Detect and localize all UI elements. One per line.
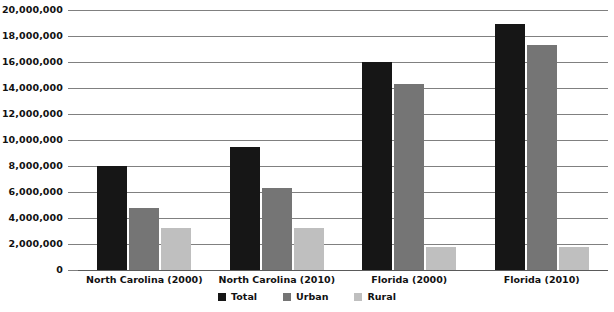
bar-group bbox=[343, 10, 476, 270]
y-axis-label: 12,000,000 bbox=[0, 108, 63, 119]
category-label: North Carolina (2010) bbox=[211, 274, 344, 285]
bar-group bbox=[211, 10, 344, 270]
bar-group bbox=[78, 10, 211, 270]
bar-urban bbox=[527, 45, 557, 270]
gridline bbox=[78, 270, 608, 271]
legend-swatch-icon bbox=[283, 293, 291, 301]
bar-rural bbox=[559, 247, 589, 270]
legend-swatch-icon bbox=[354, 293, 362, 301]
legend-item-urban[interactable]: Urban bbox=[283, 291, 328, 302]
y-axis-tick bbox=[68, 88, 78, 89]
bar-urban bbox=[394, 84, 424, 270]
chart-legend: TotalUrbanRural bbox=[0, 291, 614, 302]
bar-rural bbox=[426, 247, 456, 270]
bar-total bbox=[230, 147, 260, 271]
category-label: North Carolina (2000) bbox=[78, 274, 211, 285]
y-axis-tick bbox=[68, 10, 78, 11]
y-axis-tick bbox=[68, 192, 78, 193]
y-axis-tick bbox=[68, 218, 78, 219]
y-axis-label: 14,000,000 bbox=[0, 82, 63, 93]
y-axis-tick bbox=[68, 36, 78, 37]
y-axis-label: 10,000,000 bbox=[0, 134, 63, 145]
bar-urban bbox=[262, 188, 292, 270]
legend-label: Rural bbox=[367, 291, 395, 302]
bar-total bbox=[362, 62, 392, 270]
legend-swatch-icon bbox=[218, 293, 226, 301]
bar-total bbox=[97, 166, 127, 270]
legend-item-rural[interactable]: Rural bbox=[354, 291, 395, 302]
y-axis-label: 18,000,000 bbox=[0, 30, 63, 41]
y-axis-label: 16,000,000 bbox=[0, 56, 63, 67]
legend-label: Total bbox=[231, 291, 257, 302]
y-axis-label: 0 bbox=[0, 264, 63, 275]
bar-rural bbox=[294, 228, 324, 270]
y-axis-label: 8,000,000 bbox=[0, 160, 63, 171]
bar-chart: 20,000,00018,000,00016,000,00014,000,000… bbox=[0, 0, 614, 312]
y-axis-tick bbox=[68, 62, 78, 63]
category-label: Florida (2000) bbox=[343, 274, 476, 285]
legend-item-total[interactable]: Total bbox=[218, 291, 257, 302]
bar-groups bbox=[78, 10, 608, 270]
bar-urban bbox=[129, 208, 159, 270]
y-axis-label: 2,000,000 bbox=[0, 238, 63, 249]
bar-group bbox=[476, 10, 609, 270]
legend-label: Urban bbox=[296, 291, 328, 302]
y-axis-tick bbox=[68, 244, 78, 245]
y-axis-tick bbox=[68, 140, 78, 141]
y-axis-label: 4,000,000 bbox=[0, 212, 63, 223]
bar-total bbox=[495, 24, 525, 270]
y-axis-tick bbox=[68, 270, 78, 271]
y-axis-label: 20,000,000 bbox=[0, 4, 63, 15]
category-label: Florida (2010) bbox=[476, 274, 609, 285]
y-axis-tick bbox=[68, 114, 78, 115]
y-axis-tick bbox=[68, 166, 78, 167]
y-axis-label: 6,000,000 bbox=[0, 186, 63, 197]
bar-rural bbox=[161, 228, 191, 270]
category-axis-labels: North Carolina (2000)North Carolina (201… bbox=[78, 274, 608, 285]
